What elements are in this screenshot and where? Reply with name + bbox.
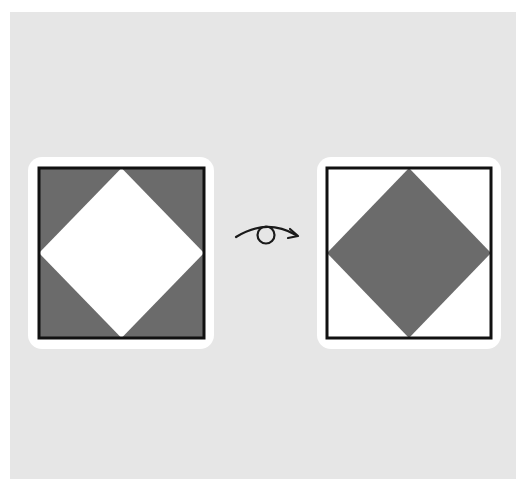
right-tile-card: Flipped tile: white corners, gray diamon… bbox=[317, 157, 501, 349]
right-tile-graphic bbox=[317, 157, 501, 349]
flip-rotation-arrow-icon bbox=[230, 215, 305, 250]
left-tile-card: Original tile: gray corners, white diamo… bbox=[28, 157, 214, 349]
flip-icon-label: Flip / rotate over bbox=[0, 0, 1, 1]
left-tile-graphic bbox=[28, 157, 214, 349]
diagram-stage: Original tile: gray corners, white diamo… bbox=[0, 0, 526, 490]
